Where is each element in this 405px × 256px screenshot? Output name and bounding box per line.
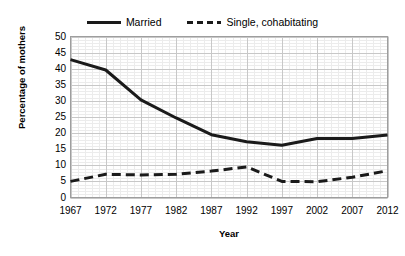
x-tick-label: 2012 bbox=[366, 206, 405, 216]
x-axis-title: Year bbox=[70, 228, 388, 239]
line-chart: Married Single, cohabitating Percentage … bbox=[0, 0, 405, 256]
x-axis-tick-labels: 1967197219771982198719921997200220072012 bbox=[0, 0, 405, 256]
